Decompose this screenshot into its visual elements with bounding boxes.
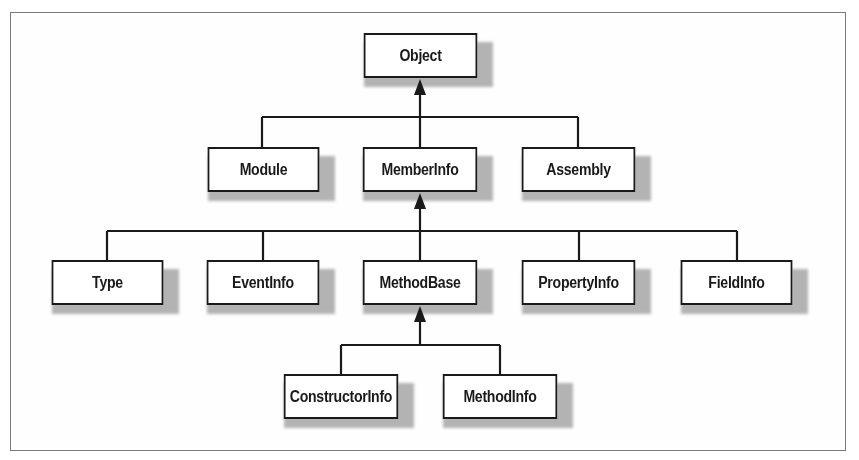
node-type: Type xyxy=(52,260,164,305)
node-assembly: Assembly xyxy=(522,147,636,192)
node-memberinfo: MemberInfo xyxy=(363,147,477,192)
node-eventinfo: EventInfo xyxy=(207,260,320,305)
node-methodinfo: MethodInfo xyxy=(443,374,557,419)
node-object: Object xyxy=(364,33,478,78)
node-constructorinfo: ConstructorInfo xyxy=(284,374,398,419)
node-fieldinfo: FieldInfo xyxy=(681,260,793,305)
node-module: Module xyxy=(208,147,320,192)
node-methodbase: MethodBase xyxy=(363,260,477,305)
node-propertyinfo: PropertyInfo xyxy=(522,260,636,305)
